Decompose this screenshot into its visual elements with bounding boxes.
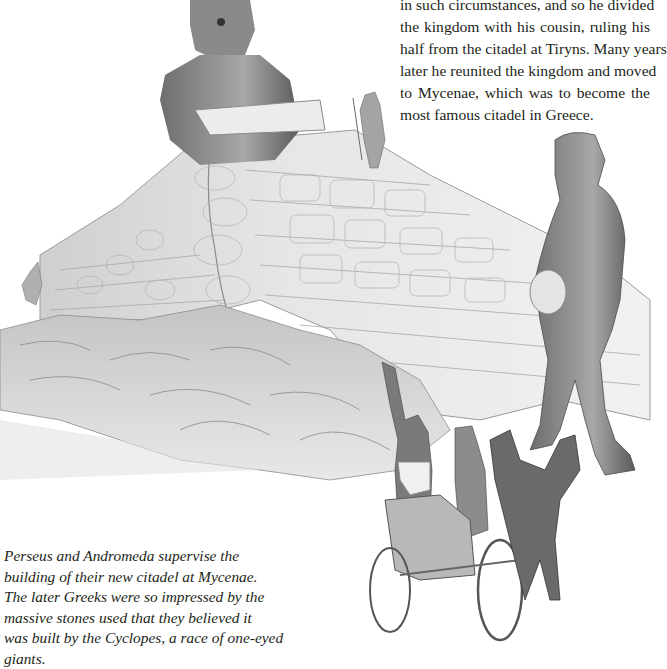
body-line: the kingdom with his cousin, ruling his [400,16,650,38]
caption-line: building of their new citadel at Mycenae… [4,567,294,588]
chariot [370,495,522,640]
body-line: later he reunited the kingdom and moved [400,60,650,82]
caption-line: massive stones used that they believed i… [4,608,294,629]
cyclops-carrying-boulder [530,132,635,475]
horses [490,430,580,600]
caption-line: Perseus and Andromeda supervise the [4,546,294,567]
body-line: most famous citadel in Greece. [400,104,650,126]
body-line: in such circumstances, and so he divided [400,0,650,16]
caption-line: The later Greeks were so impressed by th… [4,587,294,608]
climbing-worker [22,262,42,305]
caption-line: giants. [4,649,294,669]
caption-line: was built by the Cyclopes, a race of one… [4,628,294,649]
illustration-caption: Perseus and Andromeda supervise the buil… [4,546,294,669]
body-text: in such circumstances, and so he divided… [400,0,650,126]
body-line: to Mycenae, which was to become the [400,82,650,104]
body-line: half from the citadel at Tiryns. Many ye… [400,38,650,60]
